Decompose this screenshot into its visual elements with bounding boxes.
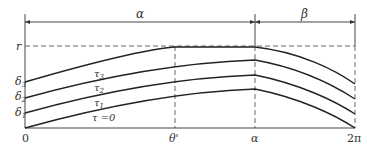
tau3-label: τ3 (94, 68, 105, 81)
two-pi-label: 2π (347, 132, 361, 145)
tau1-label: τ1 (94, 97, 104, 110)
arrowhead-alpha-end-icon (250, 20, 255, 24)
tau2-label: τ2 (94, 82, 105, 95)
beta-span-label: β (300, 7, 308, 21)
tau0-label: τ =0 (92, 112, 116, 123)
angle-profile-diagram: α β τ3 τ2 τ1 τ =0 r δ3 δ2 δ1 0 θ' α 2π (0, 0, 373, 149)
theta-prime-label: θ' (169, 132, 179, 145)
arrowhead-right-icon (350, 20, 355, 24)
curves (25, 47, 355, 128)
alpha-axis-label: α (251, 132, 259, 145)
r-label: r (16, 40, 22, 53)
curve-tau0 (25, 89, 355, 128)
arrowhead-left-icon (25, 20, 30, 24)
delta1-label: δ1 (15, 106, 26, 120)
origin-label: 0 (22, 132, 29, 145)
alpha-span-label: α (136, 7, 144, 21)
arrowhead-beta-start-icon (255, 20, 260, 24)
